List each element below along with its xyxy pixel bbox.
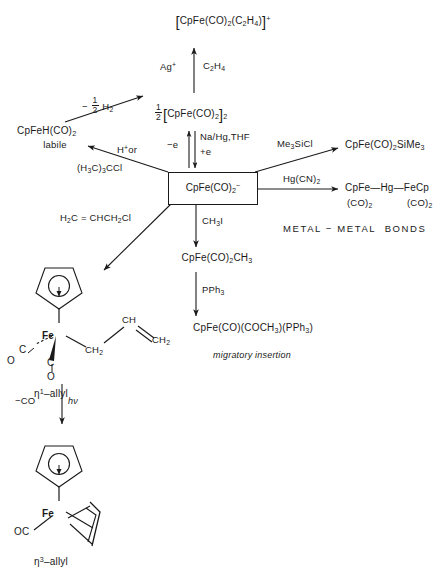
reagent-minus-e: −e — [167, 140, 178, 151]
node-silyl: CpFe(CO)2SiMe3 — [345, 139, 425, 152]
arrow-silylation — [255, 148, 338, 172]
reagent-plus-e: +e — [200, 147, 211, 158]
reagent-na-hg-thf: Na/Hg,THF — [200, 132, 250, 143]
eta1-co-axial-oxygen: O — [7, 355, 15, 367]
node-acyl: CpFe(CO)(COCH3)(PPh3) — [193, 322, 313, 335]
reagent-minus-half-h2: − 12 H2 — [82, 96, 113, 114]
eta1-ch2-terminal: CH2 — [152, 335, 170, 347]
reagent-tert-butyl-chloride: (H3C)3CCl — [77, 163, 122, 175]
eta1-co-axial-carbon: C — [19, 344, 26, 356]
reagent-me3sicl: Me3SiCl — [277, 139, 313, 151]
node-mercury-left-carbonyls: (CO)2 — [347, 198, 372, 210]
reagent-allyl-chloride: H2C = CHCH2Cl — [60, 213, 131, 225]
metal-metal-bonds-caption: METAL − METAL BONDS — [283, 224, 426, 235]
node-mercury-right-carbonyls: (CO)2 — [407, 198, 432, 210]
node-ethylene-cation: [CpFe(CO)2(C2H4)]+ — [175, 14, 270, 31]
eta3-allyl-structure — [34, 446, 100, 546]
center-species-label: CpFe(CO)2− — [186, 181, 240, 195]
eta3-allyl-caption: η3–allyl — [34, 556, 68, 568]
eta3-oc-ligand: OC — [14, 526, 29, 538]
eta1-allyl-caption: η1–allyl — [34, 388, 68, 400]
eta1-co-wedge-carbon: C — [47, 357, 54, 369]
eta3-fe-atom: Fe — [42, 508, 54, 520]
center-species-box: CpFe(CO)2− — [168, 172, 258, 205]
reagent-minus-co: −CO — [15, 396, 35, 407]
reagent-pph3: PPh3 — [202, 285, 225, 297]
node-hydride-note: labile — [43, 140, 66, 151]
eta1-ch-vinyl: CH — [122, 315, 136, 326]
node-acyl-note: migratory insertion — [213, 350, 291, 360]
reagent-methyl-iodide: CH3I — [202, 216, 223, 228]
eta1-ch2-alpha: CH2 — [85, 345, 103, 357]
node-hydride: CpFeH(CO)2 — [17, 125, 76, 138]
reagent-silver: Ag+ — [160, 61, 176, 73]
node-methyl: CpFe(CO)2CH3 — [182, 252, 253, 265]
node-dimer: 12[CpFe(CO)2]2 — [154, 103, 228, 123]
eta1-fe-atom: Fe — [42, 330, 54, 342]
reagent-proton: H+or — [117, 144, 137, 156]
reagent-h-nu: hν — [68, 396, 78, 406]
reagent-ethylene: C2H4 — [203, 61, 225, 73]
node-mercury-bridge: CpFe—Hg—FeCp — [345, 182, 429, 194]
reagent-mercuric-cyanide: Hg(CN)2 — [283, 174, 320, 186]
eta1-co-wedge-oxygen: O — [47, 371, 55, 383]
